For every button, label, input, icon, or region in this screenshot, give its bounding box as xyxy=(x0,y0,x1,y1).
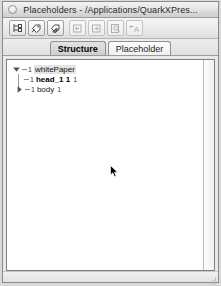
close-button[interactable] xyxy=(8,5,17,14)
window-title: Placeholders - /Applications/QuarkXPres.… xyxy=(17,5,218,15)
tree-item-head[interactable]: 1 head_1 1 1 xyxy=(7,74,203,84)
tree-item-head-label: head_1 1 xyxy=(36,75,70,84)
tree-item-whitepaper[interactable]: 1 whitePaper xyxy=(7,64,203,74)
text-a-icon: A xyxy=(129,23,140,34)
text-attributes-button[interactable]: A xyxy=(126,20,143,36)
tab-bar: Structure Placeholder xyxy=(3,39,218,56)
tree-item-head-count: 1 xyxy=(30,76,34,83)
structure-tree[interactable]: 1 whitePaper 1 head_1 1 1 xyxy=(7,60,203,270)
resize-grip[interactable] xyxy=(206,272,217,282)
tab-structure-label: Structure xyxy=(58,44,98,54)
tree-item-head-tail: 1 xyxy=(73,76,77,83)
window-titlebar[interactable]: Placeholders - /Applications/QuarkXPres.… xyxy=(3,2,218,18)
tab-structure[interactable]: Structure xyxy=(50,41,106,55)
screenshot-root: Placeholders - /Applications/QuarkXPres.… xyxy=(0,0,221,286)
content-area: 1 whitePaper 1 head_1 1 1 xyxy=(3,56,218,271)
arrow-outof-box-icon xyxy=(91,23,102,34)
tree-item-whitepaper-count: 1 xyxy=(28,66,32,73)
svg-text:A: A xyxy=(134,24,139,33)
tree-item-body-label: body xyxy=(37,85,54,94)
tree-dash xyxy=(22,69,27,70)
edit-placeholder-button[interactable] xyxy=(47,20,64,36)
tag-edit-icon xyxy=(50,23,61,34)
export-button[interactable] xyxy=(88,20,105,36)
placeholders-window: Placeholders - /Applications/QuarkXPres.… xyxy=(2,1,219,283)
tree-item-body-count: 1 xyxy=(31,86,35,93)
tree-vertical-scrollbar[interactable] xyxy=(203,60,214,270)
new-node-button[interactable] xyxy=(9,20,26,36)
tab-placeholder[interactable]: Placeholder xyxy=(108,41,172,55)
tag-plus-icon xyxy=(31,23,42,34)
toolbar: A xyxy=(3,18,218,39)
mouse-pointer xyxy=(110,164,119,177)
tree-item-body-tail: 1 xyxy=(57,86,61,93)
disclosure-expanded-icon[interactable] xyxy=(12,65,21,74)
tab-placeholder-label: Placeholder xyxy=(116,44,164,54)
disclosure-collapsed-icon[interactable] xyxy=(15,85,24,94)
window-bottom-bar xyxy=(3,271,218,282)
structure-tree-frame: 1 whitePaper 1 head_1 1 1 xyxy=(6,59,215,271)
import-button[interactable] xyxy=(69,20,86,36)
magnifier-page-icon xyxy=(110,23,121,34)
tree-dash xyxy=(24,79,29,80)
tree-item-whitepaper-label: whitePaper xyxy=(34,65,76,74)
tree-dash xyxy=(25,89,30,90)
new-placeholder-button[interactable] xyxy=(28,20,45,36)
tree-node-icon xyxy=(12,23,23,34)
tree-item-body[interactable]: 1 body 1 xyxy=(7,84,203,94)
arrow-into-box-icon xyxy=(72,23,83,34)
find-button[interactable] xyxy=(107,20,124,36)
